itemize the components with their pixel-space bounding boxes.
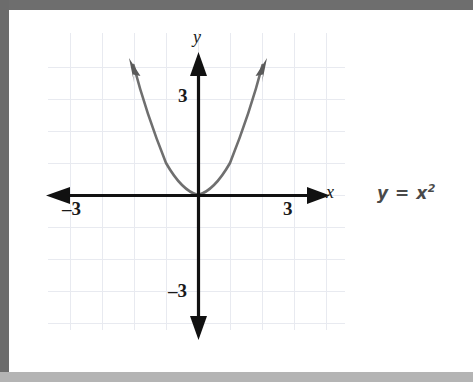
y-axis-label: y [193, 27, 201, 48]
frame-bottom-edge [0, 372, 473, 382]
equation-text: y = x [377, 183, 428, 203]
curve-arrowhead-right [256, 58, 268, 83]
y-axis-tick-3: 3 [178, 85, 188, 107]
equation-annotation: y = x2 [377, 182, 436, 203]
x-axis-tick-minus-3: –3 [62, 198, 81, 220]
parabola-graph-figure: y x 3 –3 –3 3 y = x2 [0, 0, 473, 382]
x-axis-label: x [326, 182, 334, 203]
y-axis-arrowhead-top [190, 52, 207, 76]
equation-exponent: 2 [428, 182, 436, 195]
x-axis-tick-3: 3 [283, 198, 293, 220]
y-axis-arrowhead-bottom [190, 316, 207, 340]
y-axis-tick-minus-3: –3 [168, 280, 187, 302]
